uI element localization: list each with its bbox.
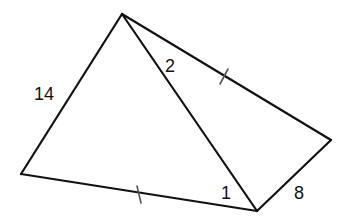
side-label-ab: 14 xyxy=(34,84,54,104)
side-da xyxy=(122,14,331,140)
angle-label-2: 2 xyxy=(165,56,175,76)
side-label-cd: 8 xyxy=(294,183,304,203)
angle-label-1: 1 xyxy=(221,183,231,203)
geometry-diagram: 14 2 1 8 xyxy=(0,0,348,216)
tick-mark-bc xyxy=(137,186,141,203)
diagonal-ac xyxy=(122,14,257,211)
